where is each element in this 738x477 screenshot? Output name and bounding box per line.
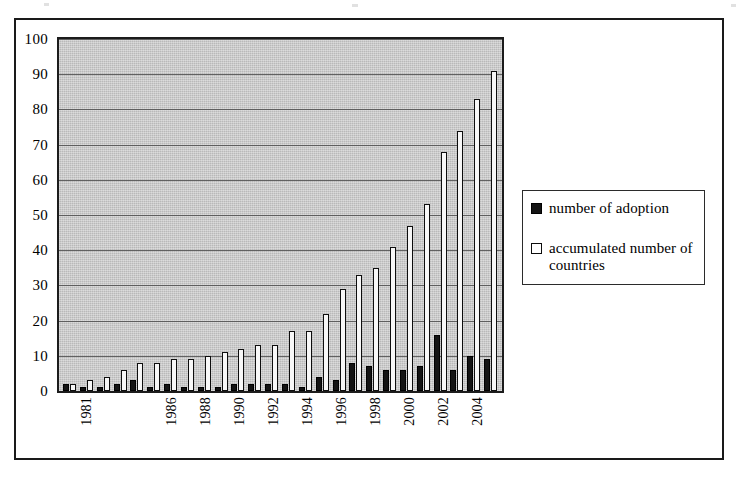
bar-number-of-adoption: [450, 370, 456, 391]
x-axis-tick: [350, 395, 367, 457]
bar-number-of-adoption: [282, 384, 288, 391]
bar-accumulated-number-of-countries: [272, 345, 278, 391]
bar-group: [265, 39, 282, 391]
bar-number-of-adoption: [63, 384, 69, 391]
x-axis-tick: 1996: [333, 395, 350, 457]
y-axis-tick-label: 90: [32, 67, 48, 82]
y-axis-tick-label: 100: [25, 32, 48, 47]
bar-chart: 1009080706050403020100 19811986198819901…: [16, 20, 726, 462]
bar-group: [349, 39, 366, 391]
x-axis-tick: 1981: [78, 395, 95, 457]
x-axis-tick-label: 2004: [471, 397, 485, 426]
bar-number-of-adoption: [434, 335, 440, 391]
bar-number-of-adoption: [80, 387, 86, 391]
x-axis-tick: [180, 395, 197, 457]
bar-group: [215, 39, 232, 391]
bar-group: [434, 39, 451, 391]
bar-number-of-adoption: [181, 387, 187, 391]
bar-accumulated-number-of-countries: [390, 247, 396, 391]
bar-accumulated-number-of-countries: [407, 226, 413, 391]
y-axis-tick-label: 60: [32, 172, 48, 187]
bar-accumulated-number-of-countries: [306, 331, 312, 391]
y-axis-tick-label: 80: [32, 102, 48, 117]
bar-number-of-adoption: [366, 366, 372, 391]
bar-number-of-adoption: [299, 387, 305, 391]
bar-accumulated-number-of-countries: [171, 359, 177, 391]
bar-group: [147, 39, 164, 391]
bar-group: [383, 39, 400, 391]
bar-number-of-adoption: [198, 387, 204, 391]
x-axis-tick: [146, 395, 163, 457]
x-axis-tick-label: 1994: [301, 397, 315, 426]
bar-number-of-adoption: [383, 370, 389, 391]
x-axis-tick: 1994: [299, 395, 316, 457]
bar-group: [63, 39, 80, 391]
bar-group: [164, 39, 181, 391]
bar-number-of-adoption: [333, 380, 339, 391]
scan-artifact: [44, 3, 49, 6]
bar-accumulated-number-of-countries: [188, 359, 194, 391]
x-axis-tick: [129, 395, 146, 457]
x-axis-tick: 1992: [265, 395, 282, 457]
bar-accumulated-number-of-countries: [222, 352, 228, 391]
bar-accumulated-number-of-countries: [340, 289, 346, 391]
bar-group: [467, 39, 484, 391]
x-axis-tick-label: 1992: [267, 397, 281, 426]
x-axis-tick: [248, 395, 265, 457]
bar-group: [80, 39, 97, 391]
bar-number-of-adoption: [130, 380, 136, 391]
x-axis-tick: [282, 395, 299, 457]
bar-number-of-adoption: [400, 370, 406, 391]
legend-item-accumulated-number-of-countries: accumulated number of countries: [531, 240, 697, 274]
x-axis-tick: [316, 395, 333, 457]
bar-accumulated-number-of-countries: [87, 380, 93, 391]
bar-number-of-adoption: [349, 363, 355, 391]
bar-group: [248, 39, 265, 391]
bar-accumulated-number-of-countries: [154, 363, 160, 391]
x-axis-tick-label: 1990: [233, 397, 247, 426]
figure-frame: 1009080706050403020100 19811986198819901…: [14, 18, 724, 460]
x-axis-tick-label: 1998: [369, 397, 383, 426]
x-axis-tick: 2002: [435, 395, 452, 457]
y-axis-tick-label: 0: [40, 384, 48, 399]
bar-accumulated-number-of-countries: [424, 204, 430, 391]
scan-artifact: [352, 4, 358, 7]
y-axis-tick-label: 10: [32, 348, 48, 363]
legend-item-number-of-adoption: number of adoption: [531, 200, 697, 217]
bar-accumulated-number-of-countries: [121, 370, 127, 391]
x-axis-tick: 1986: [163, 395, 180, 457]
legend-label: accumulated number of countries: [549, 240, 697, 274]
bar-group: [114, 39, 131, 391]
x-axis-tick: [95, 395, 112, 457]
x-axis-tick-label: 1986: [165, 397, 179, 426]
x-axis-tick: [418, 395, 435, 457]
bar-number-of-adoption: [114, 384, 120, 391]
bar-number-of-adoption: [316, 377, 322, 391]
bar-accumulated-number-of-countries: [474, 99, 480, 391]
bar-group: [316, 39, 333, 391]
legend-label: number of adoption: [549, 200, 669, 217]
bar-group: [417, 39, 434, 391]
bar-number-of-adoption: [467, 356, 473, 391]
bar-accumulated-number-of-countries: [104, 377, 110, 391]
bar-number-of-adoption: [248, 384, 254, 391]
y-axis-tick-label: 40: [32, 243, 48, 258]
x-axis-tick-label: 1988: [199, 397, 213, 426]
x-axis-tick: 2004: [469, 395, 486, 457]
bar-number-of-adoption: [231, 384, 237, 391]
bar-group: [198, 39, 215, 391]
bar-group: [299, 39, 316, 391]
x-axis-tick: [61, 395, 78, 457]
x-axis-labels: 1981198619881990199219941996199820002002…: [57, 395, 504, 457]
x-axis-tick: 1990: [231, 395, 248, 457]
bar-accumulated-number-of-countries: [255, 345, 261, 391]
bars-container: [59, 39, 502, 391]
bar-accumulated-number-of-countries: [70, 384, 76, 391]
bar-accumulated-number-of-countries: [205, 356, 211, 391]
x-axis-tick: 1998: [367, 395, 384, 457]
x-axis-tick: 1988: [197, 395, 214, 457]
bar-group: [97, 39, 114, 391]
bar-number-of-adoption: [417, 366, 423, 391]
x-axis-tick: [384, 395, 401, 457]
bar-group: [450, 39, 467, 391]
